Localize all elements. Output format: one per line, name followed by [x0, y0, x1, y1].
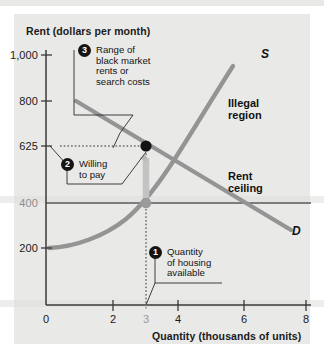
x-tick-label-3: 3 — [136, 313, 156, 325]
x-tick-label-0: 0 — [36, 313, 56, 325]
y-tick-label-800: 800 — [0, 95, 38, 107]
quantity-supplied-point — [141, 198, 151, 208]
supply-curve — [49, 66, 233, 248]
callout-3-text: Range of black market rents or search co… — [96, 45, 150, 87]
illegal-region-label: Illegal region — [228, 98, 262, 121]
x-tick-label-4: 4 — [168, 313, 188, 325]
callout-1-badge: 1 — [149, 246, 162, 259]
callout-3-badge: 3 — [78, 44, 91, 57]
x-tick-label-6: 6 — [234, 313, 254, 325]
willing-to-pay-point — [140, 140, 151, 151]
x-tick-label-2: 2 — [103, 313, 123, 325]
callout-2-badge: 2 — [61, 158, 74, 171]
callout-1-pointer — [146, 283, 155, 305]
callout-1-text: Quantity of housing available — [167, 247, 211, 279]
y-tick-label-200: 200 — [0, 242, 38, 254]
y-axis-title: Rent (dollars per month) — [26, 25, 150, 37]
y-tick-label-400: 400 — [0, 197, 38, 209]
callout-2-pointer — [122, 152, 146, 184]
rent-ceiling-label: Rent ceiling — [228, 171, 263, 194]
demand-curve-label: D — [292, 224, 301, 238]
x-tick-label-8: 8 — [296, 313, 316, 325]
figure-root: Rent (dollars per month) Quantity (thous… — [0, 0, 324, 358]
y-tick-label-1000: 1,000 — [0, 49, 38, 61]
chart-canvas — [0, 0, 324, 358]
supply-curve-label: S — [261, 47, 269, 61]
x-axis-title: Quantity (thousands of units) — [152, 330, 301, 342]
y-tick-label-625: 625 — [0, 140, 38, 152]
callout-2-text: Willing to pay — [79, 159, 107, 180]
